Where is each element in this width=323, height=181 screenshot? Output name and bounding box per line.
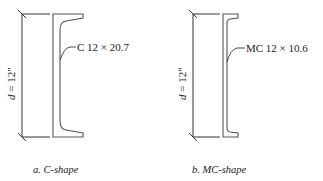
c-shape-profile <box>53 14 83 137</box>
dimension-line-mc <box>189 10 220 141</box>
leader-line-mc <box>227 48 245 62</box>
dimension-line-c <box>18 10 50 141</box>
dimension-label-mc: d = 12" <box>176 67 188 100</box>
mc-shape-profile <box>223 14 238 137</box>
leader-line-c <box>60 47 76 60</box>
caption-mc: b. MC-shape <box>192 164 247 175</box>
shape-label-mc: MC 12 × 10.6 <box>246 42 308 54</box>
channel-shapes-diagram: C 12 × 20.7 d = 12" a. C-shape MC 12 × 1… <box>0 0 323 181</box>
dimension-label-c: d = 12" <box>5 67 17 100</box>
panel-c-shape: C 12 × 20.7 d = 12" a. C-shape <box>5 10 130 175</box>
caption-c: a. C-shape <box>33 164 79 175</box>
shape-label-c: C 12 × 20.7 <box>77 41 130 53</box>
panel-mc-shape: MC 12 × 10.6 d = 12" b. MC-shape <box>176 10 308 175</box>
